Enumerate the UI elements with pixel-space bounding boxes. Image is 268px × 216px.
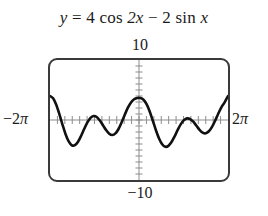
figure-root: y = 4 cos 2x − 2 sin x 10 −10 −2π 2π: [0, 0, 268, 216]
x-min-label-number: −2: [3, 110, 20, 127]
title-term2-function: sin: [175, 8, 195, 27]
y-min-label: −10: [112, 184, 168, 202]
title-equals: =: [72, 8, 82, 27]
title-term1-argument: 2x: [127, 8, 143, 27]
x-min-label-pi: π: [20, 110, 28, 127]
title-term2-coefficient: 2: [162, 8, 171, 27]
graph-svg: [50, 60, 228, 180]
title-minus-operator: −: [148, 8, 158, 27]
title-lhs: y: [60, 8, 68, 27]
axes-group: [50, 60, 228, 180]
title-term1-coefficient: 4: [86, 8, 95, 27]
x-min-label: −2π: [3, 110, 28, 128]
title-term2-argument: x: [200, 8, 208, 27]
y-max-label: 10: [118, 36, 162, 54]
x-max-label-pi: π: [240, 110, 248, 127]
graph-viewport: [48, 58, 230, 182]
x-max-label-number: 2: [232, 110, 240, 127]
title-term1-function: cos: [99, 8, 122, 27]
equation-title: y = 4 cos 2x − 2 sin x: [0, 8, 268, 28]
x-max-label: 2π: [232, 110, 248, 128]
